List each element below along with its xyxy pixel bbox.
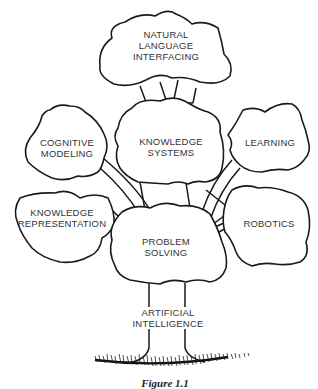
- label-line: LEARNING: [245, 137, 295, 148]
- label-line: MODELING: [40, 148, 94, 159]
- label-line: ROBOTICS: [243, 218, 294, 229]
- label-line: NATURAL: [133, 29, 199, 40]
- figure-caption: Figure 1.1: [141, 377, 189, 389]
- label-line: INTELLIGENCE: [132, 318, 203, 329]
- grass: [95, 353, 249, 366]
- label-line: KNOWLEDGE: [139, 136, 203, 147]
- label-line: ARTIFICIAL: [132, 307, 203, 318]
- label-robotics: ROBOTICS: [243, 218, 294, 229]
- label-line: SOLVING: [142, 247, 190, 258]
- label-line: REPRESENTATION: [18, 218, 107, 229]
- label-line: PROBLEM: [142, 236, 190, 247]
- label-artificial-intelligence: ARTIFICIAL INTELLIGENCE: [130, 307, 205, 329]
- label-line: COGNITIVE: [40, 137, 94, 148]
- label-problem-solving: PROBLEM SOLVING: [142, 236, 190, 258]
- label-learning: LEARNING: [245, 137, 295, 148]
- label-knowledge-representation: KNOWLEDGE REPRESENTATION: [18, 207, 107, 229]
- label-cognitive-modeling: COGNITIVE MODELING: [40, 137, 94, 159]
- label-line: KNOWLEDGE: [18, 207, 107, 218]
- label-natural-language: NATURAL LANGUAGE INTERFACING: [133, 29, 199, 62]
- label-knowledge-systems: KNOWLEDGE SYSTEMS: [139, 136, 203, 158]
- label-line: INTERFACING: [133, 51, 199, 62]
- label-line: SYSTEMS: [139, 147, 203, 158]
- label-line: LANGUAGE: [133, 40, 199, 51]
